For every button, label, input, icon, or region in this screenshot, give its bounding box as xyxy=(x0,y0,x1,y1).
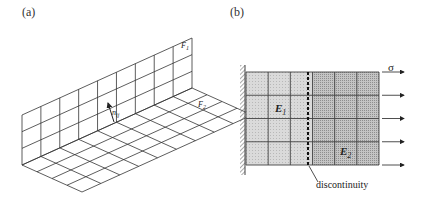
wall-grid xyxy=(22,38,192,165)
figure-canvas: nij F1 F2 E1 E2 σ discontinuity xyxy=(0,0,422,201)
panel-b-diagram xyxy=(240,65,404,182)
clamp-support xyxy=(240,65,245,175)
wall-label: F1 xyxy=(180,41,189,51)
floor-label: F2 xyxy=(197,100,206,110)
stress-label: σ xyxy=(388,61,394,73)
floor-grid xyxy=(22,88,252,192)
panel-a-diagram xyxy=(22,38,252,192)
normal-label: nij xyxy=(112,108,120,118)
discontinuity-label: discontinuity xyxy=(316,179,368,190)
